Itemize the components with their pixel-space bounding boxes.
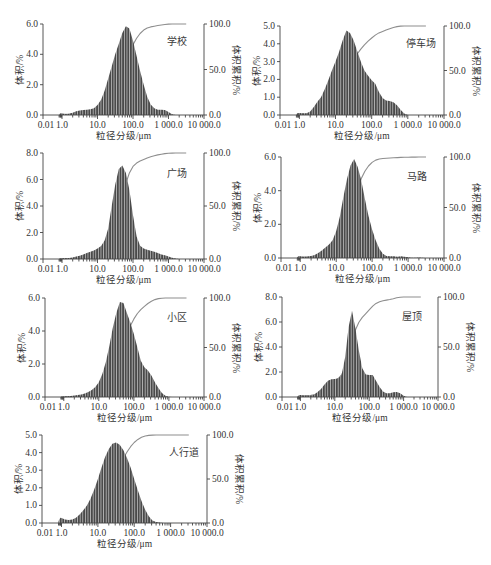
y2-axis-title: 体积累积/% <box>234 454 244 505</box>
x-tick-label: 10 000.0 <box>427 120 460 130</box>
y-tick-label: 0.0 <box>264 253 276 263</box>
y2-axis-title: 体积累积/% <box>231 181 241 232</box>
chart-title: 小区 <box>167 313 187 323</box>
y-axis-title: 体积/% <box>253 192 263 223</box>
chart-rooftop: 屋顶 体积/% 体积累积/% 粒径分级/μm 0.02.04.06.08.00.… <box>245 280 490 420</box>
x-tick-label: 0.01 <box>38 264 55 274</box>
x-tick-label: 100.0 <box>361 263 382 273</box>
y-axis-title: 体积/% <box>15 54 25 85</box>
y2-tick-label: 50.0 <box>443 342 460 352</box>
y-axis-title: 体积/% <box>14 464 24 495</box>
y2-tick-label: 100.0 <box>209 19 230 29</box>
y-tick-label: 5.0 <box>263 21 275 31</box>
volume-histogram <box>298 311 421 397</box>
y-axis-title: 体积/% <box>252 55 262 86</box>
chart-road: 马路 体积/% 体积累积/% 粒径分级/μm 0.02.04.06.00.050… <box>245 140 490 280</box>
y2-axis-title: 体积累积/% <box>471 182 481 233</box>
y-tick-label: 4.0 <box>26 201 38 211</box>
y2-tick-label: 50.0 <box>212 474 229 484</box>
chart-parking-lot: 停车场 体积/% 体积累积/% 粒径分级/μm 0.01.02.03.04.05… <box>245 10 490 150</box>
x-tick-label: 1.0 <box>293 120 305 130</box>
x-axis-title: 粒径分级/μm <box>97 539 152 549</box>
y-tick-label: 2.0 <box>28 359 40 369</box>
y-tick-label: 4.0 <box>265 342 277 352</box>
y2-tick-label: 100.0 <box>449 152 470 162</box>
y-tick-label: 2.0 <box>265 367 277 377</box>
y2-tick-label: 50.0 <box>209 343 226 353</box>
chart-title: 学校 <box>167 37 187 47</box>
y-tick-label: 0.0 <box>26 254 38 264</box>
y2-tick-label: 0.0 <box>449 110 461 120</box>
x-tick-label: 0.01 <box>275 120 292 130</box>
y-axis-title: 体积/% <box>15 191 25 222</box>
y-tick-label: 4.0 <box>28 326 40 336</box>
y-tick-label: 3.0 <box>263 57 275 67</box>
x-tick-label: 100.0 <box>359 402 380 412</box>
x-tick-label: 0.01 <box>276 263 293 273</box>
x-tick-label: 1.0 <box>56 264 68 274</box>
x-tick-label: 10 000.0 <box>421 402 454 412</box>
x-tick-label: 1 000.0 <box>394 120 423 130</box>
x-tick-label: 10.0 <box>89 120 106 130</box>
x-tick-label: 100.0 <box>122 264 143 274</box>
y2-tick-label: 0.0 <box>209 254 221 264</box>
x-tick-label: 0.01 <box>37 528 54 538</box>
y-tick-label: 1.0 <box>263 92 275 102</box>
x-tick-label: 1.0 <box>58 402 70 412</box>
x-tick-label: 10.0 <box>328 263 345 273</box>
chart-title: 屋顶 <box>402 312 422 322</box>
y2-tick-label: 50.0 <box>209 201 226 211</box>
chart-school: 学校 体积/% 体积累积/% 粒径分级/μm 0.02.04.06.00.050… <box>0 10 245 150</box>
x-tick-label: 10 000.0 <box>187 402 220 412</box>
y2-tick-label: 100.0 <box>209 293 230 303</box>
y2-tick-label: 100.0 <box>212 430 233 440</box>
y-tick-label: 1.0 <box>25 500 37 510</box>
y-tick-label: 6.0 <box>264 152 276 162</box>
x-tick-label: 1.0 <box>56 120 68 130</box>
y2-tick-label: 0.0 <box>209 392 221 402</box>
y2-axis-title: 体积累积/% <box>231 322 241 373</box>
y-tick-label: 2.0 <box>26 228 38 238</box>
x-tick-label: 100.0 <box>122 120 143 130</box>
x-tick-label: 100.0 <box>361 120 382 130</box>
y-tick-label: 6.0 <box>265 317 277 327</box>
x-tick-label: 10 000.0 <box>187 264 220 274</box>
y-tick-label: 8.0 <box>26 148 38 158</box>
y-tick-label: 2.0 <box>26 80 38 90</box>
y-tick-label: 6.0 <box>26 19 38 29</box>
y-tick-label: 4.0 <box>263 39 275 49</box>
x-tick-label: 10.0 <box>89 264 106 274</box>
y-tick-label: 0.0 <box>26 110 38 120</box>
x-tick-label: 0.01 <box>38 120 55 130</box>
y2-tick-label: 0.0 <box>209 110 221 120</box>
chart-square: 广场 体积/% 体积累积/% 粒径分级/μm 0.02.04.06.08.00.… <box>0 140 245 280</box>
y-tick-label: 3.0 <box>25 465 37 475</box>
y-tick-label: 0.0 <box>263 110 275 120</box>
y-tick-label: 0.0 <box>28 392 40 402</box>
y2-tick-label: 0.0 <box>443 392 455 402</box>
x-tick-label: 1.0 <box>56 528 68 538</box>
y2-tick-label: 50.0 <box>449 66 466 76</box>
x-tick-label: 10 000.0 <box>427 263 460 273</box>
y2-tick-label: 50.0 <box>449 203 466 213</box>
chart-title: 广场 <box>167 169 187 179</box>
x-tick-label: 10 000.0 <box>187 120 220 130</box>
y-axis-title: 体积/% <box>254 332 264 363</box>
y-tick-label: 2.0 <box>263 74 275 84</box>
y-axis-title: 体积/% <box>17 332 27 363</box>
x-tick-label: 1.0 <box>294 263 306 273</box>
x-tick-label: 1 000.0 <box>155 402 184 412</box>
y-tick-label: 4.0 <box>25 448 37 458</box>
chart-title: 马路 <box>407 172 427 182</box>
x-tick-label: 10.0 <box>326 402 343 412</box>
y2-tick-label: 0.0 <box>449 253 461 263</box>
y2-axis-title: 体积累积/% <box>231 44 241 95</box>
y-tick-label: 6.0 <box>26 175 38 185</box>
x-tick-label: 1 000.0 <box>154 120 183 130</box>
y-tick-label: 0.0 <box>265 392 277 402</box>
y2-tick-label: 100.0 <box>449 21 470 31</box>
x-tick-label: 10 000.0 <box>190 528 223 538</box>
y-tick-label: 8.0 <box>265 292 277 302</box>
x-tick-label: 1 000.0 <box>154 264 183 274</box>
y2-tick-label: 50.0 <box>209 65 226 75</box>
